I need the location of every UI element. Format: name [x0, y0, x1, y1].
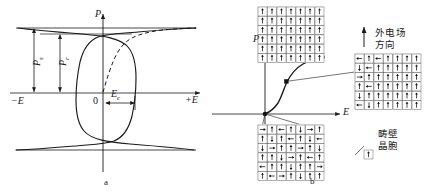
domain-wall-unitcell-label: 畴壁 晶胞	[378, 128, 399, 152]
grid-middle-partial	[354, 53, 421, 110]
panel-a-hysteresis: P −E +E 0 Ps Pr Ec a	[0, 0, 212, 195]
unit-cell-label: 晶胞	[378, 140, 399, 152]
label-ps: Ps	[32, 66, 41, 79]
external-field-label-line2: 方向	[375, 39, 406, 51]
axis-label-plus-e: +E	[185, 95, 198, 105]
external-field-label: 外电场 方向	[375, 27, 406, 51]
panel-caption-b: b	[310, 177, 315, 186]
axis-label-p-a: P	[95, 9, 101, 19]
grid-top-aligned	[257, 6, 324, 63]
curve-initial-dashed	[103, 28, 196, 92]
axis-label-minus-e: −E	[11, 96, 24, 106]
axis-label-p-b: P	[253, 34, 259, 44]
domain-wall-label: 畴壁	[378, 128, 399, 140]
label-ps-symbol: P	[31, 60, 42, 66]
grid-bottom-random	[257, 124, 324, 181]
label-pr: Pr	[58, 66, 67, 79]
origin-label-a: 0	[93, 96, 98, 106]
grid-single-cell	[364, 150, 373, 159]
leader-to-middle-grid	[289, 72, 355, 81]
external-field-label-line1: 外电场	[375, 27, 406, 39]
label-ps-subscript: s	[37, 57, 45, 60]
label-ec: Ec	[111, 89, 120, 102]
label-ec-subscript: c	[117, 94, 120, 102]
panel-a-plot	[0, 0, 212, 195]
label-pr-symbol: P	[57, 60, 68, 66]
figure-root: P −E +E 0 Ps Pr Ec a	[0, 0, 425, 195]
panel-caption-a: a	[104, 178, 108, 187]
leader-to-unit-cell	[355, 146, 364, 155]
label-pr-subscript: r	[63, 57, 71, 60]
marker-mid	[284, 79, 288, 83]
panel-b-domains: P E 外电场 方向 畴壁 晶胞 b	[212, 0, 425, 195]
curve-initial-b	[265, 57, 322, 114]
axis-label-e-b: E	[343, 107, 349, 117]
